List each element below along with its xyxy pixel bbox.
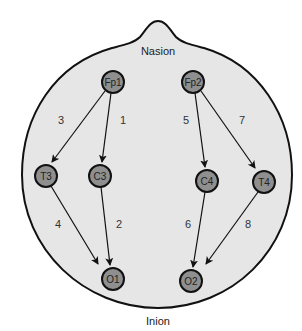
electrode-label: O1 — [106, 274, 120, 285]
electrode-label: T4 — [258, 177, 270, 188]
electrode-label: C3 — [94, 171, 107, 182]
edge-label-7: 7 — [239, 114, 245, 126]
electrode-label: Fp1 — [104, 77, 122, 88]
electrode-o1: O1 — [102, 268, 124, 290]
electrode-fp1: Fp1 — [102, 71, 124, 93]
edge-label-6: 6 — [185, 218, 191, 230]
electrode-label: O2 — [184, 276, 198, 287]
edge-label-8: 8 — [245, 218, 251, 230]
edge-label-5: 5 — [183, 114, 189, 126]
inion-label: Inion — [146, 315, 170, 327]
edge-label-3: 3 — [58, 114, 64, 126]
edge-label-2: 2 — [116, 218, 122, 230]
electrode-c4: C4 — [196, 170, 218, 192]
electrode-t3: T3 — [35, 165, 57, 187]
nasion-label: Nasion — [141, 45, 175, 57]
eeg-montage-diagram: Fp1 Fp2 T3 C3 C4 T4 O1 O2 — [0, 0, 302, 331]
head-outline — [22, 21, 292, 308]
electrode-label: Fp2 — [184, 77, 202, 88]
electrode-o2: O2 — [180, 270, 202, 292]
edge-label-4: 4 — [55, 218, 61, 230]
electrode-fp2: Fp2 — [182, 71, 204, 93]
edge-label-1: 1 — [120, 114, 126, 126]
electrode-c3: C3 — [89, 165, 111, 187]
electrode-label: C4 — [201, 176, 214, 187]
electrode-label: T3 — [40, 171, 52, 182]
electrode-t4: T4 — [253, 171, 275, 193]
